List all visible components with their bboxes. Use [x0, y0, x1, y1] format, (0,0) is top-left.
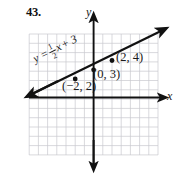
axis-label-x: x [167, 90, 172, 102]
axis-label-y: y [86, 6, 91, 18]
point-2-4 [110, 58, 115, 63]
equation-rhs: + 3 [59, 34, 79, 52]
point-label-2-4: (2, 4) [116, 51, 143, 64]
point-label-neg2-2: (−2, 2) [62, 80, 96, 93]
figure-page: 43. [0, 0, 181, 174]
point-label-origin-intercept: (0, 3) [93, 68, 120, 81]
